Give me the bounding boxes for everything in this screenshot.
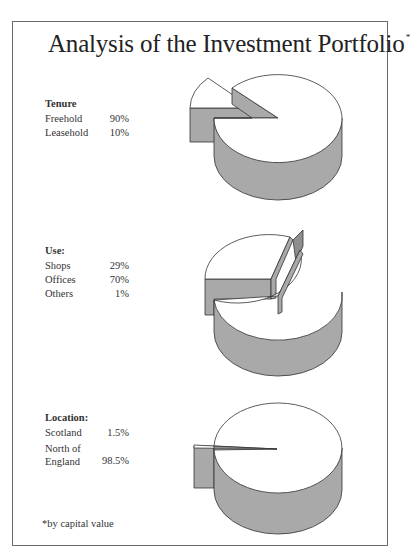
title-footnote-mark: * [406, 32, 410, 42]
pie-use [205, 230, 342, 376]
pie-location [194, 403, 342, 534]
slice-north-of-england [214, 403, 342, 534]
pie-tenure [190, 75, 342, 200]
slice-freehold [214, 75, 342, 200]
